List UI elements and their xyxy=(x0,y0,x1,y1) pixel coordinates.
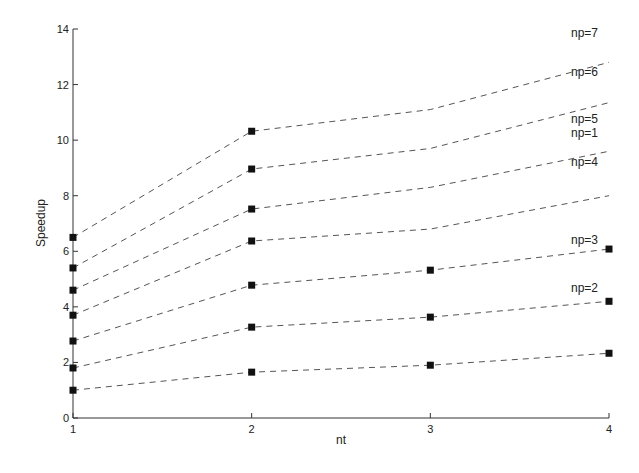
square-marker xyxy=(248,324,255,331)
series-line xyxy=(73,353,609,390)
series-np-3: np=3 xyxy=(70,233,613,344)
square-marker xyxy=(70,364,77,371)
square-marker xyxy=(70,387,77,394)
x-tick-label: 4 xyxy=(606,423,612,435)
series-label: np=2 xyxy=(571,281,598,295)
series-label: np=7 xyxy=(571,26,598,40)
y-tick-label: 4 xyxy=(63,301,69,313)
square-marker xyxy=(248,369,255,376)
y-tick-label: 12 xyxy=(57,79,69,91)
series-line xyxy=(73,103,609,268)
series-line xyxy=(73,249,609,341)
x-axis-label: nt xyxy=(336,433,347,447)
square-marker xyxy=(70,287,77,294)
series-np-6: np=6 xyxy=(70,65,610,271)
series-np-2: np=2 xyxy=(70,281,613,372)
square-marker xyxy=(70,264,77,271)
square-marker xyxy=(70,234,77,241)
axes: 024681012141234 xyxy=(57,23,612,435)
speedup-chart: 024681012141234 np=1np=2np=3np=4np=5np=6… xyxy=(0,0,639,473)
x-tick-label: 2 xyxy=(249,423,255,435)
square-marker xyxy=(427,267,434,274)
series-label: np=3 xyxy=(571,233,598,247)
series-line xyxy=(73,196,609,315)
square-marker xyxy=(606,246,613,253)
square-marker xyxy=(606,350,613,357)
y-tick-label: 2 xyxy=(63,356,69,368)
series-np-1: np=1 xyxy=(70,126,613,394)
square-marker xyxy=(248,282,255,289)
square-marker xyxy=(427,362,434,369)
square-marker xyxy=(70,338,77,345)
y-axis-label: Speedup xyxy=(34,199,48,247)
series-np-4: np=4 xyxy=(70,155,610,318)
y-tick-label: 6 xyxy=(63,245,69,257)
series-label: np=6 xyxy=(571,65,598,79)
y-tick-label: 0 xyxy=(63,412,69,424)
square-marker xyxy=(70,312,77,319)
series-line xyxy=(73,151,609,290)
x-tick-label: 1 xyxy=(70,423,76,435)
series-label: np=5 xyxy=(571,112,598,126)
square-marker xyxy=(606,298,613,305)
square-marker xyxy=(427,314,434,321)
series-label: np=1 xyxy=(571,126,598,140)
square-marker xyxy=(248,128,255,135)
square-marker xyxy=(248,166,255,173)
square-marker xyxy=(248,206,255,213)
y-tick-label: 14 xyxy=(57,23,69,35)
y-tick-label: 8 xyxy=(63,190,69,202)
series-line xyxy=(73,62,609,237)
square-marker xyxy=(248,238,255,245)
x-tick-label: 3 xyxy=(427,423,433,435)
series-np-5: np=5 xyxy=(70,112,610,293)
y-tick-label: 10 xyxy=(57,134,69,146)
series-line xyxy=(73,301,609,368)
series-group: np=1np=2np=3np=4np=5np=6np=7 xyxy=(70,26,613,394)
series-np-7: np=7 xyxy=(70,26,610,241)
series-label: np=4 xyxy=(571,155,598,169)
